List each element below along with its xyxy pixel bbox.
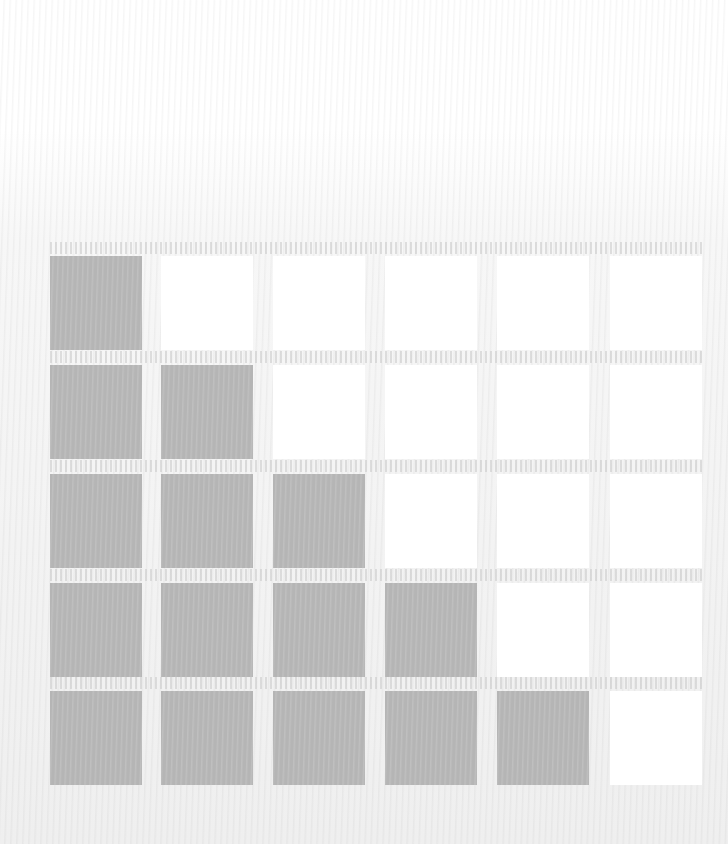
filled-cell — [385, 691, 477, 785]
empty-cell — [497, 583, 589, 677]
row-separator — [50, 677, 702, 689]
filled-cell — [161, 474, 253, 568]
filled-cell — [273, 474, 365, 568]
empty-cell — [385, 365, 477, 459]
empty-cell — [497, 474, 589, 568]
filled-cell — [50, 691, 142, 785]
filled-cell — [50, 256, 142, 350]
empty-cell — [497, 256, 589, 350]
filled-cell — [273, 691, 365, 785]
filled-cell — [161, 365, 253, 459]
filled-cell — [385, 583, 477, 677]
filled-cell — [50, 365, 142, 459]
empty-cell — [385, 256, 477, 350]
empty-cell — [610, 583, 702, 677]
row-separator — [50, 351, 702, 363]
empty-cell — [385, 474, 477, 568]
empty-cell — [273, 365, 365, 459]
filled-cell — [50, 583, 142, 677]
filled-cell — [50, 474, 142, 568]
empty-cell — [610, 365, 702, 459]
empty-cell — [161, 256, 253, 350]
filled-cell — [273, 583, 365, 677]
filled-cell — [497, 691, 589, 785]
filled-cell — [161, 691, 253, 785]
row-separator — [50, 460, 702, 472]
filled-cell — [161, 583, 253, 677]
empty-cell — [610, 256, 702, 350]
staircase-grid — [0, 0, 728, 844]
row-separator — [50, 569, 702, 581]
empty-cell — [497, 365, 589, 459]
row-separator — [50, 242, 702, 254]
empty-cell — [610, 474, 702, 568]
empty-cell — [273, 256, 365, 350]
empty-cell — [610, 691, 702, 785]
